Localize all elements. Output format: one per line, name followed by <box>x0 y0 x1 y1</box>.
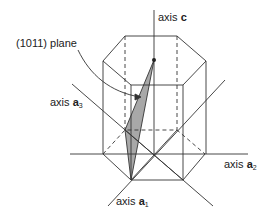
label-axis-a3-prefix: axis <box>50 96 73 108</box>
label-axis-a1: axis a1 <box>116 195 149 207</box>
label-axis-c-symbol: c <box>181 11 187 23</box>
hexagonal-prism-diagram <box>0 0 275 220</box>
plane-1011-shaded <box>125 60 154 180</box>
bottom-front-edges <box>103 154 205 180</box>
label-axis-c-prefix: axis <box>158 11 181 23</box>
axis-a1-line <box>108 80 225 206</box>
label-axis-a1-sub: 1 <box>145 201 149 208</box>
label-axis-a2: axis a2 <box>224 158 257 170</box>
apex-dot <box>152 58 156 62</box>
label-axis-a2-prefix: axis <box>224 158 247 170</box>
label-axis-a3: axis a3 <box>50 96 83 108</box>
label-axis-a2-sub: 2 <box>253 164 257 171</box>
label-plane: (1011) plane <box>16 37 77 49</box>
label-axis-a1-prefix: axis <box>116 195 139 207</box>
label-axis-a3-sub: 3 <box>79 102 83 109</box>
label-axis-c: axis c <box>158 11 187 23</box>
